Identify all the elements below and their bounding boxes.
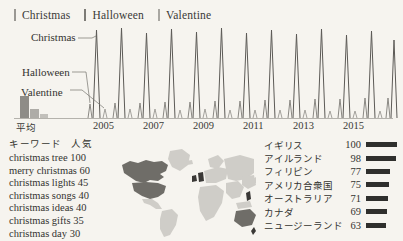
region-philippines <box>246 191 251 201</box>
legend-item-valentine[interactable]: Valentine <box>158 9 225 21</box>
country-name: アイルランド <box>264 151 339 165</box>
legend-item-christmas[interactable]: Christmas <box>14 9 84 21</box>
keyword-ranking-table: キーワード 人気 christmas tree 100 merry christ… <box>9 136 129 240</box>
country-value: 63 <box>339 220 361 231</box>
x-axis-tick-2005: 2005 <box>93 120 114 131</box>
country-value: 75 <box>339 179 361 190</box>
country-name: イギリス <box>264 138 339 152</box>
keyword-row[interactable]: christmas tree 100 <box>9 152 129 165</box>
country-row[interactable]: アメリカ合衆国 75 <box>264 178 403 191</box>
country-name: カナダ <box>264 205 339 219</box>
legend-swatch-icon <box>14 9 16 21</box>
x-axis-tick-2007: 2007 <box>143 120 164 131</box>
region-mexico <box>142 199 162 209</box>
country-bar <box>366 209 387 214</box>
region-africa <box>198 185 224 221</box>
country-bar <box>366 196 388 201</box>
legend-label: Valentine <box>166 9 211 21</box>
series-callout-halloween: Halloween <box>22 66 70 78</box>
region-greenland <box>168 149 190 171</box>
keyword-row[interactable]: christmas day 30 <box>9 228 129 241</box>
region-europe <box>204 167 228 183</box>
country-bar <box>366 182 389 187</box>
country-value: 98 <box>339 153 361 164</box>
world-choropleth-map[interactable] <box>120 139 256 239</box>
google-trends-screenshot: Christmas Halloween Valentine <box>0 0 403 241</box>
country-row[interactable]: アイルランド 98 <box>264 151 403 164</box>
country-name: オーストラリア <box>264 191 339 205</box>
country-bar <box>366 223 386 228</box>
x-axis-label-average: 平均 <box>16 120 36 134</box>
country-value: 77 <box>339 166 361 177</box>
series-callout-christmas: Christmas <box>31 31 76 43</box>
christmas-spikes <box>93 28 397 118</box>
country-row[interactable]: オーストラリア 71 <box>264 192 403 205</box>
legend-swatch-icon <box>84 9 86 21</box>
country-name: ニュージーランド <box>264 218 339 232</box>
country-ranking-table: イギリス 100 アイルランド 98 フィリピン 77 アメリカ合衆国 75 オ… <box>264 138 403 232</box>
legend-label: Halloween <box>92 9 144 21</box>
keyword-column-header: キーワード <box>9 136 71 150</box>
legend-item-halloween[interactable]: Halloween <box>84 9 158 21</box>
x-axis-tick-2015: 2015 <box>343 120 364 131</box>
series-legend: Christmas Halloween Valentine <box>14 6 225 24</box>
keyword-row[interactable]: christmas lights 45 <box>9 177 129 190</box>
x-axis-line <box>14 118 393 119</box>
keyword-row[interactable]: christmas ideas 40 <box>9 202 129 215</box>
series-callout-valentine: Valentine <box>21 86 63 98</box>
region-united-kingdom <box>198 172 204 182</box>
valentine-spikes <box>103 109 382 118</box>
keyword-table-header: キーワード 人気 <box>9 136 129 150</box>
region-scandinavia <box>208 155 224 169</box>
keyword-row[interactable]: christmas gifts 35 <box>9 215 129 228</box>
country-name: アメリカ合衆国 <box>264 178 339 192</box>
keyword-row[interactable]: christmas songs 40 <box>9 190 129 203</box>
x-axis-tick-2009: 2009 <box>193 120 214 131</box>
country-name: フィリピン <box>264 164 339 178</box>
country-value: 69 <box>339 206 361 217</box>
region-australia <box>234 209 256 227</box>
halloween-spikes <box>88 98 390 118</box>
average-bars <box>20 96 48 118</box>
region-new-zealand <box>251 227 256 235</box>
country-row[interactable]: イギリス 100 <box>264 138 403 151</box>
region-united-states <box>132 182 166 199</box>
region-south-america <box>160 209 178 237</box>
country-row[interactable]: カナダ 69 <box>264 205 403 218</box>
x-axis-tick-2013: 2013 <box>293 120 314 131</box>
region-canada <box>122 160 168 183</box>
country-row[interactable]: ニュージーランド 63 <box>264 218 403 231</box>
country-value: 100 <box>339 139 361 150</box>
country-bar <box>366 169 390 174</box>
country-bar <box>366 142 397 147</box>
legend-swatch-icon <box>158 9 160 21</box>
popularity-column-header: 人気 <box>71 136 92 150</box>
country-value: 71 <box>339 193 361 204</box>
region-ireland <box>192 175 197 182</box>
country-bar <box>366 156 396 161</box>
x-axis-tick-2011: 2011 <box>243 120 264 131</box>
region-india <box>226 181 244 199</box>
region-indonesia <box>236 201 252 209</box>
legend-label: Christmas <box>22 9 70 21</box>
keyword-row[interactable]: merry christmas 60 <box>9 165 129 178</box>
country-row[interactable]: フィリピン 77 <box>264 165 403 178</box>
